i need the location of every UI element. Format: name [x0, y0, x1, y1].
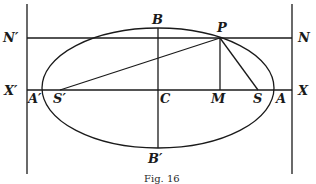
label-x-prime: X′ [3, 83, 18, 98]
label-m: M [210, 91, 226, 106]
label-n: N [297, 30, 311, 45]
label-a-prime: A′ [26, 91, 42, 106]
label-n-prime: N′ [2, 30, 19, 45]
label-s-prime: S′ [53, 91, 66, 106]
ps-prime-line [60, 38, 220, 90]
label-c: C [160, 91, 171, 106]
label-b: B [151, 12, 163, 27]
ellipse-diagram: N′ N X′ X A′ S′ C M S A B B′ P Fig. 16 [0, 0, 316, 184]
label-p: P [216, 20, 228, 35]
ps-line [220, 38, 258, 90]
label-x: X [297, 83, 309, 98]
figure-caption: Fig. 16 [144, 173, 180, 184]
label-b-prime: B′ [147, 151, 163, 166]
label-a: A [274, 91, 286, 106]
label-s: S [253, 91, 262, 106]
